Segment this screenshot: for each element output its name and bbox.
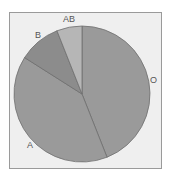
pie-chart: OABAB: [0, 0, 169, 173]
slice-label-o: O: [150, 75, 157, 85]
slice-label-a: A: [27, 140, 33, 150]
slice-label-b: B: [35, 30, 41, 40]
slice-label-ab: AB: [63, 14, 75, 24]
